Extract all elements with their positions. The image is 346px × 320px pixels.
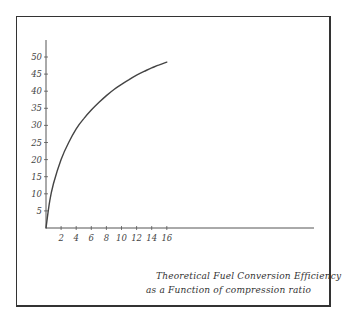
y-tick-label: 40 — [30, 86, 42, 96]
y-axis-ticks: 5101520253035404550 — [30, 52, 48, 216]
y-tick-label: 20 — [30, 155, 42, 165]
x-tick-label: 2 — [57, 233, 63, 243]
x-tick-label: 16 — [161, 233, 172, 243]
y-tick-label: 45 — [30, 69, 42, 79]
x-tick-label: 12 — [131, 233, 142, 243]
x-tick-label: 4 — [72, 233, 78, 243]
y-tick-label: 15 — [31, 172, 42, 182]
x-tick-label: 6 — [89, 233, 95, 243]
x-axis-ticks: 246810121416 — [57, 226, 172, 243]
y-tick-label: 25 — [30, 138, 42, 148]
efficiency-curve — [46, 62, 167, 228]
chart-axes — [46, 40, 314, 228]
y-tick-label: 30 — [31, 120, 42, 130]
efficiency-chart: 246810121416 5101520253035404550 Theoret… — [0, 0, 346, 320]
caption-line-1: Theoretical Fuel Conversion Efficiency — [156, 271, 342, 281]
y-tick-label: 50 — [31, 52, 42, 62]
y-tick-label: 10 — [31, 189, 42, 199]
caption-line-2: as a Function of compression ratio — [146, 285, 311, 295]
y-tick-label: 35 — [31, 103, 42, 113]
x-tick-label: 8 — [104, 233, 110, 243]
y-tick-label: 5 — [37, 206, 42, 216]
x-tick-label: 10 — [116, 233, 127, 243]
x-tick-label: 14 — [146, 233, 157, 243]
